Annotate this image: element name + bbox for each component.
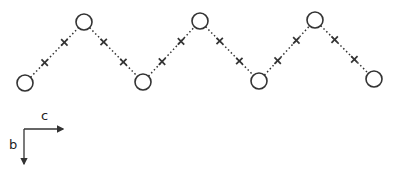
x-marker-icon (100, 39, 106, 45)
atom-circle (17, 75, 33, 91)
atom-nodes (17, 12, 382, 91)
x-marker-icon (41, 59, 47, 65)
atom-circle (366, 71, 382, 87)
dotted-bond (90, 28, 138, 77)
x-marker-icon (236, 58, 242, 64)
atom-circle (307, 12, 323, 28)
atom-circle (135, 74, 151, 90)
x-marker-icon (331, 36, 337, 42)
x-marker-icon (159, 58, 165, 64)
c-axis-label: c (41, 109, 48, 122)
b-axis-label: b (9, 138, 17, 151)
dotted-bonds (31, 26, 369, 78)
x-marker-icon (216, 38, 222, 44)
x-markers (41, 36, 357, 65)
dotted-bond (31, 28, 79, 77)
dotted-bond (264, 26, 309, 75)
axis-indicator (24, 129, 63, 164)
x-marker-icon (274, 57, 280, 63)
zigzag-chain-diagram (0, 0, 394, 172)
dotted-bond (206, 27, 254, 76)
atom-circle (251, 73, 267, 89)
dotted-bond (321, 26, 369, 74)
x-marker-icon (351, 56, 357, 62)
x-marker-icon (293, 37, 299, 43)
atom-circle (76, 14, 92, 30)
x-marker-icon (61, 39, 67, 45)
dotted-bond (148, 27, 194, 76)
x-marker-icon (178, 38, 184, 44)
atom-circle (192, 13, 208, 29)
x-marker-icon (120, 59, 126, 65)
